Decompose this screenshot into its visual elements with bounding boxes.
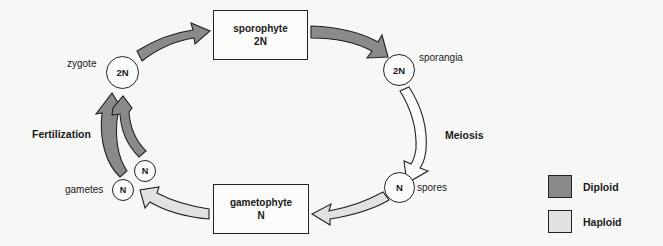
life-cycle-diagram: sporophyte 2N gametophyte N 2N zygote 2N…	[0, 0, 663, 246]
arrow-zygote-to-sporophyte	[137, 23, 210, 61]
sporangia-circle: 2N	[383, 54, 415, 86]
zygote-label: zygote	[67, 58, 96, 70]
legend-label-diploid: Diploid	[583, 181, 619, 193]
sporophyte-name: sporophyte	[233, 22, 287, 35]
gametophyte-ploidy: N	[257, 209, 264, 222]
legend-label-haploid: Haploid	[583, 216, 622, 228]
spores-ploidy: N	[396, 182, 403, 193]
spores-circle: N	[384, 172, 415, 203]
zygote-ploidy: 2N	[116, 67, 128, 78]
spores-label: spores	[417, 182, 447, 194]
sporophyte-box: sporophyte 2N	[213, 10, 308, 60]
sporangia-label: sporangia	[419, 52, 463, 64]
gamete-lower-ploidy: N	[120, 185, 127, 195]
gametes-label: gametes	[65, 184, 103, 196]
gamete-upper-ploidy: N	[142, 166, 149, 176]
gamete-circle-lower: N	[112, 179, 134, 201]
gametophyte-box: gametophyte N	[213, 184, 309, 234]
zygote-circle: 2N	[106, 56, 139, 89]
meiosis-label: Meiosis	[445, 129, 484, 141]
fertilization-label: Fertilization	[32, 128, 91, 140]
arrow-spores-to-gametophyte	[312, 192, 389, 225]
sporophyte-ploidy: 2N	[254, 35, 267, 48]
arrow-sporophyte-to-sporangia	[311, 26, 388, 58]
arrow-meiosis	[400, 87, 428, 183]
gamete-circle-upper: N	[134, 160, 156, 182]
legend-swatch-haploid	[548, 210, 572, 233]
gametophyte-name: gametophyte	[230, 196, 292, 209]
sporangia-ploidy: 2N	[393, 65, 405, 76]
arrow-gametophyte-to-gametes	[140, 187, 209, 219]
legend-swatch-diploid	[548, 175, 572, 198]
